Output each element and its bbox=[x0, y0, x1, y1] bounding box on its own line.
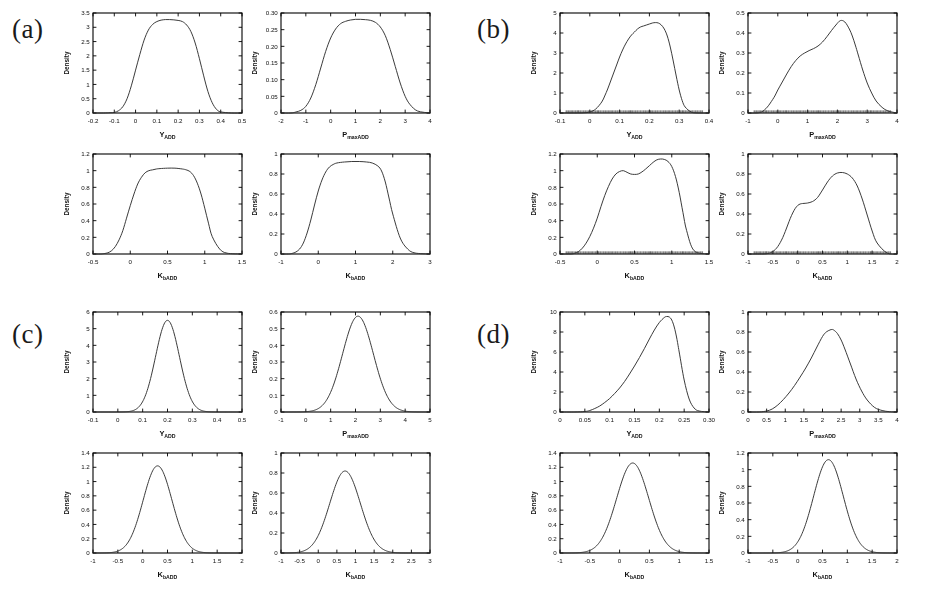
svg-text:0.6: 0.6 bbox=[81, 200, 90, 207]
svg-text:1: 1 bbox=[784, 416, 788, 423]
svg-text:0: 0 bbox=[796, 258, 800, 265]
svg-text:KbADD: KbADD bbox=[813, 271, 833, 281]
subplot-a4: -1012300.20.40.60.81DensityKbADD bbox=[248, 145, 438, 285]
svg-text:1.5: 1.5 bbox=[705, 557, 714, 564]
svg-text:KbADD: KbADD bbox=[158, 570, 178, 580]
svg-text:0.4: 0.4 bbox=[736, 368, 745, 375]
svg-text:0: 0 bbox=[274, 109, 278, 116]
svg-text:0.4: 0.4 bbox=[736, 210, 745, 217]
svg-text:0.6: 0.6 bbox=[736, 348, 745, 355]
svg-text:3: 3 bbox=[379, 416, 383, 423]
svg-text:-0.2: -0.2 bbox=[88, 117, 99, 124]
svg-text:0.3: 0.3 bbox=[269, 358, 278, 365]
svg-text:0.05: 0.05 bbox=[579, 416, 592, 423]
svg-text:0.6: 0.6 bbox=[548, 200, 557, 207]
svg-text:PmaxADD: PmaxADD bbox=[809, 130, 836, 140]
svg-text:Density: Density bbox=[63, 51, 71, 75]
svg-text:4: 4 bbox=[895, 416, 899, 423]
svg-text:2: 2 bbox=[836, 117, 840, 124]
svg-text:1.5: 1.5 bbox=[81, 66, 90, 73]
subplot-b3: -0.500.511.500.20.40.60.811.2DensityKbAD… bbox=[527, 145, 717, 285]
svg-text:Density: Density bbox=[251, 491, 259, 515]
svg-text:1.4: 1.4 bbox=[81, 449, 90, 456]
svg-text:0.5: 0.5 bbox=[333, 557, 342, 564]
panel-d: (d)00.050.10.150.20.250.300246810Density… bbox=[467, 299, 934, 598]
svg-text:2: 2 bbox=[86, 375, 90, 382]
svg-text:5: 5 bbox=[428, 416, 432, 423]
panel-label: (a) bbox=[12, 14, 43, 45]
svg-text:0: 0 bbox=[596, 258, 600, 265]
svg-text:0.30: 0.30 bbox=[266, 9, 279, 16]
svg-text:3: 3 bbox=[86, 23, 90, 30]
svg-text:0.1: 0.1 bbox=[615, 117, 624, 124]
svg-text:1.2: 1.2 bbox=[81, 150, 90, 157]
svg-text:-1: -1 bbox=[745, 117, 751, 124]
svg-text:1: 1 bbox=[274, 449, 278, 456]
svg-text:3: 3 bbox=[428, 258, 432, 265]
svg-text:0.4: 0.4 bbox=[548, 521, 557, 528]
svg-text:Density: Density bbox=[718, 192, 726, 216]
svg-text:0.6: 0.6 bbox=[736, 190, 745, 197]
panel-label: (d) bbox=[477, 319, 510, 350]
svg-text:0: 0 bbox=[553, 250, 557, 257]
svg-text:0.3: 0.3 bbox=[675, 117, 684, 124]
svg-text:0.4: 0.4 bbox=[81, 521, 90, 528]
svg-text:Density: Density bbox=[530, 350, 538, 374]
svg-text:-1: -1 bbox=[557, 557, 563, 564]
svg-text:0.05: 0.05 bbox=[266, 93, 279, 100]
svg-text:4: 4 bbox=[86, 342, 90, 349]
svg-text:0: 0 bbox=[796, 557, 800, 564]
svg-text:0.1: 0.1 bbox=[736, 89, 745, 96]
svg-text:0.5: 0.5 bbox=[818, 258, 827, 265]
subplot-d3: -1-0.500.511.500.20.40.60.811.21.4Densit… bbox=[527, 444, 717, 584]
svg-text:0.8: 0.8 bbox=[736, 328, 745, 335]
svg-text:2: 2 bbox=[553, 388, 557, 395]
svg-text:0.6: 0.6 bbox=[269, 308, 278, 315]
svg-text:0.6: 0.6 bbox=[736, 499, 745, 506]
svg-text:0.5: 0.5 bbox=[736, 9, 745, 16]
subplot-c2: -101234500.10.20.30.40.50.6DensityPmaxAD… bbox=[248, 303, 438, 443]
svg-text:4: 4 bbox=[895, 117, 899, 124]
panel-b: (b)-0.100.10.20.30.4012345DensityYADD-10… bbox=[467, 0, 934, 299]
svg-text:0.2: 0.2 bbox=[645, 117, 654, 124]
svg-text:-1: -1 bbox=[303, 117, 309, 124]
svg-text:0.4: 0.4 bbox=[269, 509, 278, 516]
svg-text:0.5: 0.5 bbox=[645, 557, 654, 564]
subplot-a1: -0.2-0.100.10.20.30.40.500.511.522.533.5… bbox=[60, 4, 250, 144]
svg-text:5: 5 bbox=[86, 325, 90, 332]
svg-text:1: 1 bbox=[670, 258, 674, 265]
svg-text:2: 2 bbox=[354, 416, 358, 423]
svg-text:KbADD: KbADD bbox=[625, 271, 645, 281]
svg-text:0: 0 bbox=[129, 258, 133, 265]
svg-text:PmaxADD: PmaxADD bbox=[342, 429, 369, 439]
svg-text:-0.5: -0.5 bbox=[88, 258, 99, 265]
svg-text:4: 4 bbox=[553, 29, 557, 36]
svg-text:0.4: 0.4 bbox=[736, 516, 745, 523]
svg-text:KbADD: KbADD bbox=[346, 570, 366, 580]
svg-text:-0.1: -0.1 bbox=[555, 117, 566, 124]
svg-text:0.2: 0.2 bbox=[269, 375, 278, 382]
subplot-a3: -0.500.511.500.20.40.60.811.2DensityKbAD… bbox=[60, 145, 250, 285]
svg-text:PmaxADD: PmaxADD bbox=[809, 429, 836, 439]
svg-text:0.4: 0.4 bbox=[705, 117, 714, 124]
svg-text:0: 0 bbox=[141, 557, 145, 564]
svg-text:-0.1: -0.1 bbox=[88, 416, 99, 423]
svg-text:0.4: 0.4 bbox=[548, 217, 557, 224]
subplot-d4: -1-0.500.511.5200.20.40.60.811.2DensityK… bbox=[715, 444, 905, 584]
svg-text:3: 3 bbox=[865, 117, 869, 124]
svg-text:1.2: 1.2 bbox=[736, 449, 745, 456]
svg-text:0: 0 bbox=[776, 117, 780, 124]
svg-text:0.10: 0.10 bbox=[266, 76, 279, 83]
svg-text:-0.5: -0.5 bbox=[294, 557, 305, 564]
density-figure: (a)-0.2-0.100.10.20.30.40.500.511.522.53… bbox=[0, 0, 935, 598]
panel-label: (c) bbox=[12, 319, 43, 350]
svg-text:1: 1 bbox=[741, 466, 745, 473]
svg-text:0.3: 0.3 bbox=[188, 416, 197, 423]
svg-text:6: 6 bbox=[86, 308, 90, 315]
svg-text:0: 0 bbox=[553, 109, 557, 116]
svg-text:Density: Density bbox=[718, 51, 726, 75]
svg-text:1: 1 bbox=[806, 117, 810, 124]
svg-text:6: 6 bbox=[553, 348, 557, 355]
svg-text:0.2: 0.2 bbox=[548, 535, 557, 542]
svg-text:-1: -1 bbox=[90, 557, 96, 564]
